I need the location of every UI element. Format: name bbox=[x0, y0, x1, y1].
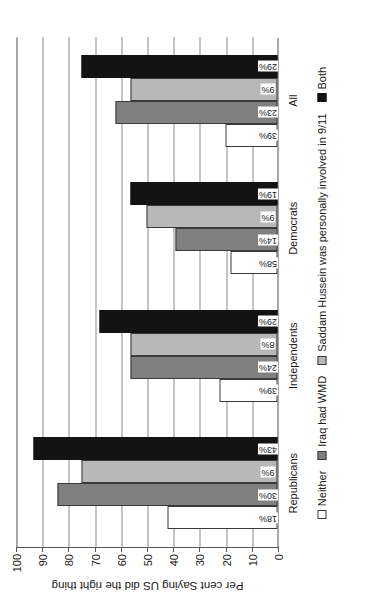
bar-wmd[interactable]: 30% bbox=[57, 483, 277, 506]
y-axis-tick-label: 70 bbox=[89, 554, 101, 566]
bar-value-label: 8% bbox=[260, 339, 275, 350]
bar-neither[interactable]: 18% bbox=[167, 506, 277, 529]
y-axis-tick-label: 30 bbox=[193, 554, 205, 566]
bar-group: 18%30%9%43%Republicans bbox=[16, 420, 277, 548]
bar-neither[interactable]: 39% bbox=[225, 124, 277, 147]
bar-saddam[interactable]: 9% bbox=[130, 78, 277, 101]
bar-wmd[interactable]: 23% bbox=[115, 101, 277, 124]
y-axis-tick-mark bbox=[147, 547, 148, 552]
bar-wmd[interactable]: 14% bbox=[175, 228, 277, 251]
bar-group: 39%23%9%29%All bbox=[16, 37, 277, 165]
y-axis-tick-mark bbox=[120, 547, 121, 552]
y-axis-tick-mark bbox=[199, 547, 200, 552]
y-axis-tick-mark bbox=[94, 547, 95, 552]
bar-value-label: 9% bbox=[260, 211, 275, 222]
y-axis-tick-label: 80 bbox=[62, 554, 74, 566]
y-axis-title: Per cent Saying US did the right thing bbox=[16, 578, 278, 594]
y-axis-tick-mark bbox=[225, 547, 226, 552]
y-axis-tick-label: 50 bbox=[141, 554, 153, 566]
rotated-figure-container: Per cent Saying US did the right thing 0… bbox=[0, 0, 371, 604]
y-axis-tick-label: 40 bbox=[167, 554, 179, 566]
y-axis-tick-label: 90 bbox=[36, 554, 48, 566]
legend-label-saddam: Saddam Hussein was personally involved i… bbox=[315, 114, 327, 352]
legend-item-saddam[interactable]: Saddam Hussein was personally involved i… bbox=[315, 114, 327, 365]
bar-value-label: 9% bbox=[260, 84, 275, 95]
legend-item-both[interactable]: Both bbox=[315, 67, 327, 103]
bar-value-label: 14% bbox=[257, 234, 277, 245]
chart-legend: NeitherIraq had WMDSaddam Hussein was pe… bbox=[315, 38, 327, 548]
y-axis-tick-label: 100 bbox=[10, 554, 22, 572]
category-label-all: All bbox=[286, 95, 298, 107]
y-axis-tick-label: 10 bbox=[246, 554, 258, 566]
bar-value-label: 24% bbox=[257, 362, 277, 373]
bar-value-label: 23% bbox=[257, 107, 277, 118]
legend-swatch-wmd bbox=[317, 451, 326, 460]
plot-area: 010203040506070809010018%30%9%43%Republi… bbox=[16, 38, 278, 548]
y-axis-tick-mark bbox=[173, 547, 174, 552]
bar-value-label: 30% bbox=[257, 489, 277, 500]
category-label-democrats: Democrats bbox=[286, 202, 298, 255]
bar-value-label: 29% bbox=[257, 61, 277, 72]
y-axis-title-text: Per cent Saying US did the right thing bbox=[51, 580, 243, 592]
bar-both[interactable]: 29% bbox=[81, 55, 278, 78]
bar-both[interactable]: 43% bbox=[33, 437, 277, 460]
bar-value-label: 29% bbox=[257, 316, 277, 327]
y-axis-tick-mark bbox=[278, 547, 279, 552]
category-label-republicans: Republicans bbox=[286, 453, 298, 514]
bar-group: 39%24%8%29%Independents bbox=[16, 292, 277, 420]
legend-swatch-both bbox=[317, 94, 326, 103]
legend-label-neither: Neither bbox=[315, 471, 327, 506]
y-axis-tick-label: 20 bbox=[220, 554, 232, 566]
y-axis-tick-label: 60 bbox=[115, 554, 127, 566]
bar-value-label: 9% bbox=[260, 466, 275, 477]
bar-both[interactable]: 29% bbox=[99, 310, 277, 333]
bar-both[interactable]: 19% bbox=[130, 182, 277, 205]
y-axis-tick-mark bbox=[251, 547, 252, 552]
bar-value-label: 43% bbox=[257, 443, 277, 454]
bar-saddam[interactable]: 9% bbox=[146, 205, 277, 228]
legend-item-wmd[interactable]: Iraq had WMD bbox=[315, 376, 327, 460]
category-label-independents: Independents bbox=[286, 322, 298, 389]
legend-label-wmd: Iraq had WMD bbox=[315, 376, 327, 447]
bar-value-label: 39% bbox=[257, 130, 277, 141]
bar-value-label: 39% bbox=[257, 385, 277, 396]
plot-wrapper: 010203040506070809010018%30%9%43%Republi… bbox=[16, 38, 278, 548]
bar-value-label: 58% bbox=[257, 257, 277, 268]
bar-chart-figure: Per cent Saying US did the right thing 0… bbox=[0, 0, 371, 604]
bar-neither[interactable]: 58% bbox=[230, 251, 277, 274]
legend-swatch-neither bbox=[317, 510, 326, 519]
bar-group: 58%14%9%19%Democrats bbox=[16, 165, 277, 293]
y-axis-tick-mark bbox=[68, 547, 69, 552]
bar-wmd[interactable]: 24% bbox=[130, 356, 277, 379]
bar-saddam[interactable]: 8% bbox=[130, 333, 277, 356]
bar-neither[interactable]: 39% bbox=[219, 379, 277, 402]
legend-item-neither[interactable]: Neither bbox=[315, 471, 327, 519]
legend-swatch-saddam bbox=[317, 356, 326, 365]
bar-value-label: 19% bbox=[257, 188, 277, 199]
bar-value-label: 18% bbox=[257, 512, 277, 523]
y-axis-tick-label: 0 bbox=[272, 554, 284, 560]
bar-saddam[interactable]: 9% bbox=[81, 460, 278, 483]
y-axis-tick-mark bbox=[42, 547, 43, 552]
legend-label-both: Both bbox=[315, 67, 327, 90]
y-axis-tick-mark bbox=[16, 547, 17, 552]
